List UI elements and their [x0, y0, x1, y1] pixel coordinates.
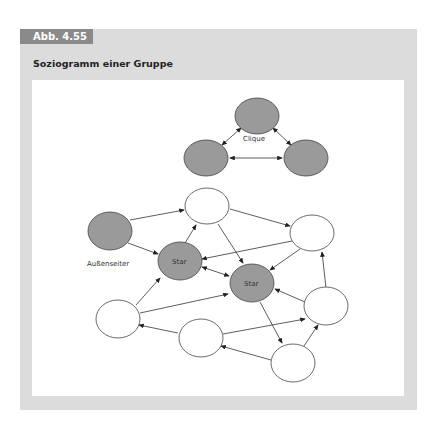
member-node — [290, 215, 334, 251]
star-label: Star — [172, 258, 186, 266]
member-node — [96, 300, 140, 338]
star-label: Star — [244, 280, 258, 288]
clique-label: Clique — [243, 135, 265, 143]
outsider-node — [88, 212, 132, 250]
member-node — [185, 188, 229, 224]
outsider-label: Außenseiter — [87, 260, 129, 268]
member-node — [271, 344, 315, 382]
clique-node-right — [284, 140, 328, 176]
clique-node-left — [184, 140, 228, 176]
clique-node-top — [235, 98, 279, 134]
member-node — [304, 287, 348, 325]
sociogram-diagram: Clique Außenseiter Star Star — [0, 0, 432, 428]
member-node — [179, 319, 223, 357]
